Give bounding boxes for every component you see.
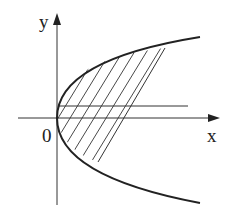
hatched-region [0, 20, 226, 200]
region-boundary-line [98, 48, 165, 162]
y-axis-label: y [39, 11, 49, 32]
x-axis-label: x [207, 125, 217, 146]
x-axis-arrow-icon [208, 114, 220, 122]
y-axis-arrow-icon [53, 13, 61, 25]
parabola-diagram: y 0 x [0, 0, 234, 221]
origin-label: 0 [42, 125, 52, 146]
